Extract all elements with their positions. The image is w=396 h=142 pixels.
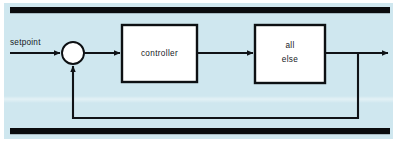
top-rule-bar	[10, 7, 390, 13]
block-controller-label: controller	[141, 49, 178, 58]
block-all-else-label-line1: all	[285, 41, 294, 50]
block-all-else-label-line2: else	[282, 55, 299, 64]
bottom-rule-bar	[10, 128, 390, 134]
setpoint-label: setpoint	[10, 38, 41, 47]
summing-junction	[62, 42, 84, 64]
figure-root: setpoint controller all else	[0, 0, 396, 142]
block-all-else	[255, 25, 325, 83]
block-diagram-canvas: setpoint controller all else	[0, 0, 396, 142]
